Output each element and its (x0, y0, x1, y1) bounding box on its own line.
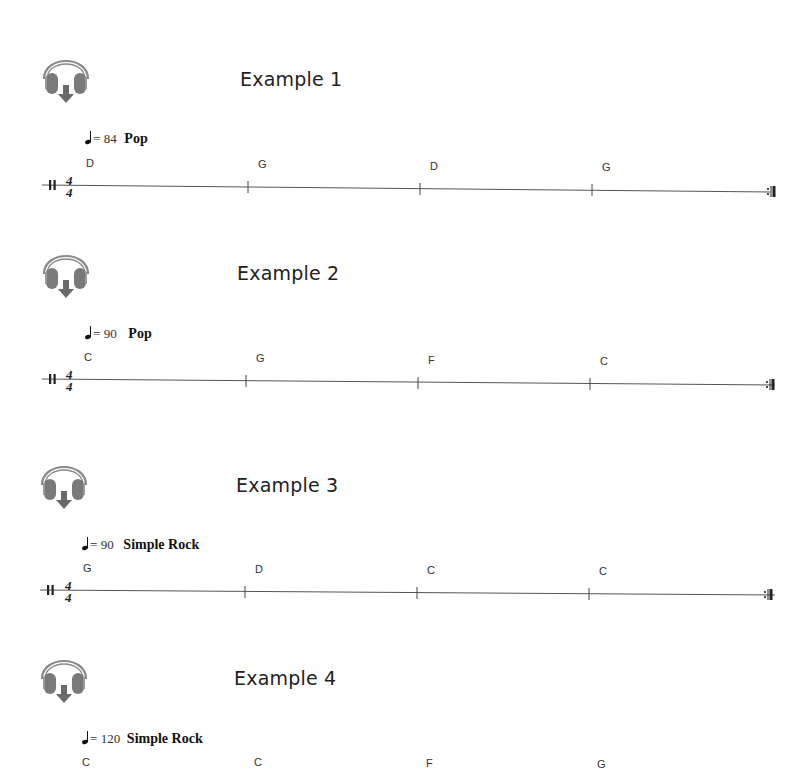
chord: C (82, 756, 90, 768)
chord-staff: 4 4 (0, 365, 811, 425)
quarter-note-icon (85, 325, 93, 339)
tempo-style: Simple Rock (127, 731, 203, 746)
tempo-marking: = 90 Pop (85, 325, 152, 342)
quarter-note-icon (85, 130, 93, 144)
chord: D (255, 563, 263, 575)
headphones-download-icon[interactable] (38, 45, 94, 107)
svg-text:4: 4 (64, 590, 72, 605)
chord-staff: 4 4 (0, 575, 811, 635)
svg-text:4: 4 (65, 379, 73, 394)
example-title: Example 1 (240, 68, 342, 90)
tempo-bpm: 90 (101, 537, 114, 552)
chord: C (254, 756, 262, 768)
chord: C (84, 351, 92, 363)
quarter-note-icon (82, 536, 90, 550)
time-signature-icon: 4 4 (65, 367, 73, 394)
example-title: Example 2 (237, 262, 339, 284)
example-title: Example 4 (234, 667, 336, 689)
chord: G (258, 158, 267, 170)
svg-text:4: 4 (65, 185, 73, 200)
tempo-bpm: 90 (104, 326, 117, 341)
tempo-marking: = 84 Pop (85, 130, 148, 147)
tempo-bpm: 120 (101, 731, 121, 746)
chord: G (597, 758, 606, 770)
chord: G (256, 352, 265, 364)
headphones-download-icon[interactable] (36, 451, 92, 513)
example-title: Example 3 (236, 474, 338, 496)
chord-staff: 4 4 (0, 170, 811, 230)
time-signature-icon: 4 4 (65, 173, 73, 200)
tempo-style: Simple Rock (123, 537, 199, 552)
quarter-note-icon (82, 730, 90, 744)
tempo-style: Pop (128, 326, 151, 341)
tempo-marking: = 120 Simple Rock (82, 730, 203, 747)
headphones-download-icon[interactable] (36, 645, 92, 707)
chord: F (426, 757, 433, 769)
tempo-marking: = 90 Simple Rock (82, 536, 199, 553)
chord: D (86, 157, 94, 169)
time-signature-icon: 4 4 (64, 578, 72, 605)
tempo-bpm: 84 (104, 131, 117, 146)
headphones-download-icon[interactable] (38, 240, 94, 302)
tempo-style: Pop (124, 131, 147, 146)
chord: G (83, 562, 92, 574)
